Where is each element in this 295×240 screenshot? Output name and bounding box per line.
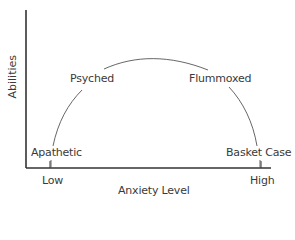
- y-axis-label: Abilities: [6, 59, 19, 99]
- point-label-flummoxed: Flummoxed: [189, 72, 251, 85]
- point-label-psyched: Psyched: [70, 72, 114, 85]
- point-label-apathetic: Apathetic: [31, 146, 82, 159]
- point-label-basket-case: Basket Case: [226, 146, 291, 159]
- curve-segment-apathetic-psyched: [53, 90, 82, 146]
- curve-segment-psyched-flummoxed: [104, 59, 208, 70]
- x-axis-label: Anxiety Level: [118, 184, 190, 197]
- low-tick-label: Low: [42, 174, 63, 187]
- curve-segment-flummoxed-basketcase: [229, 87, 257, 146]
- high-tick-label: High: [250, 174, 274, 187]
